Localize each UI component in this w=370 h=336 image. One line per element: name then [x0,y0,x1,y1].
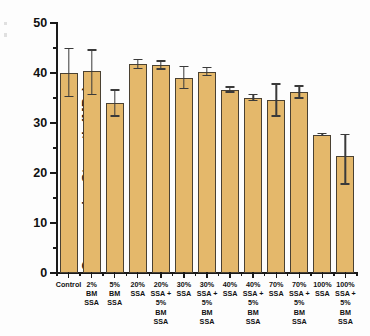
y-tick-mark [50,122,56,124]
x-tick-mark [91,272,92,278]
error-bar-cap-upper [133,59,142,60]
x-tick-boundary [218,272,219,276]
y-tick-mark [53,197,57,198]
error-bar [313,23,331,273]
error-bar-cap-lower [318,135,327,136]
x-tick-boundary [195,272,196,276]
error-bar [336,23,354,273]
error-bar-cap-upper [64,48,73,49]
error-bar-cap-lower [226,91,235,92]
error-bar-cap-lower [156,68,165,69]
plot-area: Compressive Strength (MPa) [57,23,357,273]
error-bar [83,23,101,273]
x-tick-boundary [241,272,242,276]
x-tick-mark [137,272,138,278]
y-tick-label: 20 [33,166,47,180]
error-bar-cap-upper [295,85,304,86]
y-tick-mark [50,72,56,74]
y-tick-label: 40 [33,66,47,80]
y-tick-mark [53,47,57,48]
error-bar-cap-lower [295,97,304,98]
x-tick-boundary [56,272,57,276]
error-bar-cap-lower [341,183,350,184]
error-bar-cap-lower [64,96,73,97]
error-bar [267,23,285,273]
x-tick-mark [299,272,300,278]
x-tick-mark [229,272,230,278]
scan-artifact [4,33,7,37]
error-bar [221,23,239,273]
y-tick-label: 0 [40,266,47,280]
y-tick-mark [50,222,56,224]
error-bar [290,23,308,273]
error-bar-line [299,86,300,98]
y-tick-mark [50,172,56,174]
error-bar [198,23,216,273]
error-bar-line [68,49,69,97]
y-tick-label: 30 [33,116,47,130]
x-tick-mark [68,272,69,278]
x-tick-mark [322,272,323,278]
error-bar-cap-upper [226,86,235,87]
error-bar-cap-upper [341,134,350,135]
x-tick-boundary [172,272,173,276]
error-bar-line [345,135,346,185]
x-tick-mark [160,272,161,278]
error-bar [175,23,193,273]
error-bar-cap-upper [318,133,327,134]
x-tick-mark [183,272,184,278]
x-tick-mark [252,272,253,278]
x-tick-boundary [264,272,265,276]
x-tick-mark [276,272,277,278]
x-tick-boundary [310,272,311,276]
x-tick-boundary [102,272,103,276]
x-tick-mark [206,272,207,278]
x-tick-label: 100% SSA + 5% BM SSA [328,280,362,326]
error-bar-line [91,50,92,95]
error-bar [244,23,262,273]
x-tick-boundary [356,272,357,276]
y-tick-mark [50,272,56,274]
error-bar [60,23,78,273]
x-tick-boundary [149,272,150,276]
error-bar-cap-upper [272,83,281,84]
error-bar-line [276,84,277,116]
error-bar [129,23,147,273]
error-bar-cap-upper [87,49,96,50]
x-tick-mark [345,272,346,278]
y-tick-label: 50 [33,16,47,30]
scan-artifact [4,22,7,25]
error-bar-cap-lower [87,94,96,95]
x-tick-mark [114,272,115,278]
x-tick-boundary [287,272,288,276]
error-bar-cap-lower [110,115,119,116]
y-tick-mark [53,247,57,248]
error-bar-cap-upper [249,94,258,95]
error-bar [106,23,124,273]
error-bar [152,23,170,273]
error-bar-cap-upper [179,66,188,67]
error-bar-cap-lower [133,68,142,69]
error-bar-cap-lower [249,100,258,101]
compressive-strength-bar-chart: Compressive Strength (MPa) 01020304050 C… [0,0,370,336]
y-tick-mark [50,22,56,24]
error-bar-cap-lower [179,88,188,89]
error-bar-cap-upper [203,67,212,68]
x-tick-boundary [79,272,80,276]
error-bar-cap-upper [156,60,165,61]
error-bar-line [183,67,184,89]
error-bar-cap-lower [203,75,212,76]
error-bar-cap-lower [272,115,281,116]
y-tick-label: 10 [33,216,47,230]
y-tick-mark [53,147,57,148]
x-tick-boundary [333,272,334,276]
y-tick-mark [53,97,57,98]
error-bar-cap-upper [110,89,119,90]
x-tick-boundary [126,272,127,276]
error-bar-line [114,90,115,116]
